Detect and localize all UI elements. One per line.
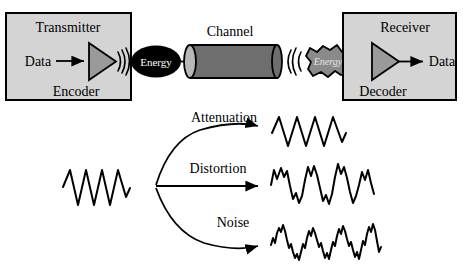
channel-block: Channel [184,24,282,78]
decoder-label: Decoder [359,84,407,99]
energy-sent-label: Energy [140,56,172,68]
receiver-block: Receiver Data Decoder [343,13,456,100]
energy-received-label: Energy [313,56,343,67]
channel-label: Channel [207,24,254,39]
attenuated-waveform [272,117,346,146]
receiver-output-label: Data [429,54,456,69]
original-signal-waveform [63,170,130,205]
transmitter-label: Transmitter [36,20,101,35]
noise-label: Noise [217,215,250,230]
transmitter-input-label: Data [25,54,52,69]
energy-sent-blob: Energy [131,46,186,78]
diagram-svg: Transmitter Data Encoder Energy Channel [0,0,463,273]
distortion-label: Distortion [190,161,247,176]
channel-cap-left [184,45,196,78]
receiver-label: Receiver [380,20,430,35]
channel-cap-right [272,45,282,78]
encoder-label: Encoder [53,84,100,99]
diagram-canvas: Transmitter Data Encoder Energy Channel [0,0,463,273]
noisy-waveform [271,224,381,260]
attenuation-label: Attenuation [191,110,257,125]
radiating-arcs-receive-icon [288,48,301,75]
distorted-waveform [271,164,374,204]
transmitter-block: Transmitter Data Encoder [6,13,131,100]
channel-body [190,45,277,78]
